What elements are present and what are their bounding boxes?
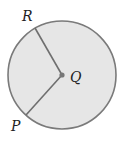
label-p: P [10,118,21,134]
label-q: Q [70,69,82,85]
label-r: R [21,8,33,24]
circle-diagram: R Q P [0,0,122,141]
center-dot [59,72,64,77]
